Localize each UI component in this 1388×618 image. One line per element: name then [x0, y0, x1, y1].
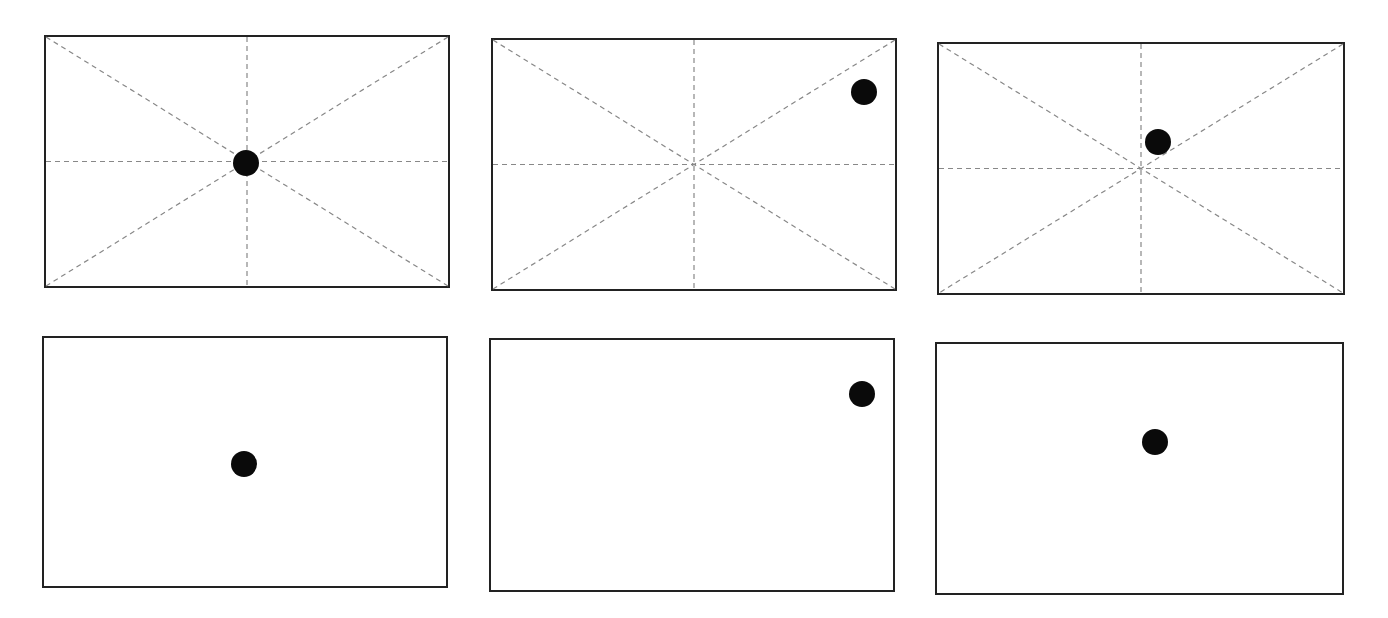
- subject-dot: [851, 79, 877, 105]
- frame-top-left: [44, 35, 450, 288]
- composition-guides: [939, 44, 1343, 293]
- frame-top-middle: [491, 38, 897, 291]
- subject-dot: [231, 451, 257, 477]
- frame-top-right: [937, 42, 1345, 295]
- subject-dot: [1145, 129, 1171, 155]
- subject-dot: [1142, 429, 1168, 455]
- subject-dot: [849, 381, 875, 407]
- subject-dot: [233, 150, 259, 176]
- composition-guides: [493, 40, 895, 289]
- frame-bottom-middle: [489, 338, 895, 592]
- frame-bottom-left: [42, 336, 448, 588]
- frame-bottom-right: [935, 342, 1344, 595]
